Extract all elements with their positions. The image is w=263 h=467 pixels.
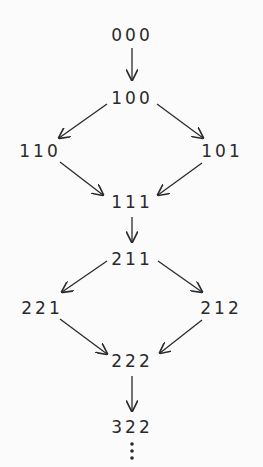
edge-212-222 [160,320,202,353]
node-110: 110 [19,141,60,161]
edge-100-101 [157,104,203,138]
edge-110-111 [60,162,103,195]
node-000: 000 [111,25,152,45]
edge-100-110 [59,104,107,138]
continuation-dots [130,442,134,460]
edges-layer [0,0,263,467]
node-100: 100 [111,88,152,108]
node-222: 222 [111,351,152,371]
edge-101-111 [158,163,202,195]
node-322: 322 [111,417,152,437]
node-111: 111 [111,192,152,212]
node-221: 221 [21,298,62,318]
node-212: 212 [200,298,241,318]
edge-211-221 [62,261,107,292]
node-101: 101 [201,141,242,161]
edge-211-212 [158,261,202,292]
edge-221-222 [60,319,107,354]
node-211: 211 [111,249,152,269]
